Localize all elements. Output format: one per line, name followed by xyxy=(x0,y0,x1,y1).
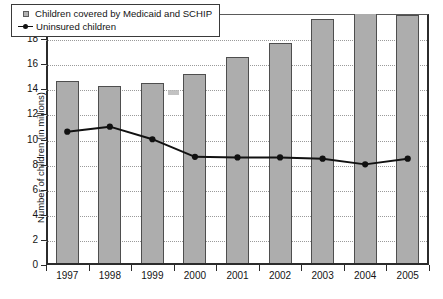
line-point-1999 xyxy=(149,136,155,142)
y-axis-tick-label: 12 xyxy=(12,109,38,119)
legend-label-medicaid: Children covered by Medicaid and SCHIP xyxy=(35,8,212,21)
line-point-2005 xyxy=(405,156,411,162)
y-axis-tick-label: 0 xyxy=(12,260,38,270)
line-point-2004 xyxy=(362,161,368,167)
scan-artifact-smudge xyxy=(168,90,179,95)
x-axis-tick-mark xyxy=(344,265,345,271)
y-axis-tick-label: 4 xyxy=(12,210,38,220)
line-point-2001 xyxy=(234,154,240,160)
x-axis-tick-label-2005: 2005 xyxy=(385,270,431,281)
legend-label-uninsured: Uninsured children xyxy=(36,21,116,34)
chart-legend: Children covered by Medicaid and SCHIP U… xyxy=(11,4,220,37)
legend-item-medicaid: Children covered by Medicaid and SCHIP xyxy=(17,8,212,21)
line-series xyxy=(46,15,429,266)
plot-area xyxy=(46,14,429,265)
line-point-1998 xyxy=(107,124,113,130)
y-axis-tick-label: 10 xyxy=(12,135,38,145)
line-point-2000 xyxy=(192,154,198,160)
x-axis-tick-label-1999: 1999 xyxy=(129,270,175,281)
x-axis-tick-mark xyxy=(131,265,132,271)
legend-line-marker-icon xyxy=(18,24,33,30)
x-axis-tick-mark xyxy=(174,265,175,271)
x-axis-tick-label-2002: 2002 xyxy=(257,270,303,281)
y-axis-tick-label: 2 xyxy=(12,235,38,245)
x-axis-tick-mark xyxy=(89,265,90,271)
legend-square-swatch-icon xyxy=(23,11,29,17)
chart-container: Number of children (in millions) 0246810… xyxy=(0,0,443,299)
y-axis-tick-label: 6 xyxy=(12,185,38,195)
x-axis-tick-mark xyxy=(301,265,302,271)
x-axis-tick-label-2000: 2000 xyxy=(172,270,218,281)
x-axis-tick-label-1998: 1998 xyxy=(87,270,133,281)
legend-item-uninsured: Uninsured children xyxy=(17,21,212,34)
x-axis-tick-label-2004: 2004 xyxy=(342,270,388,281)
x-axis-line xyxy=(46,263,427,265)
line-point-2003 xyxy=(320,156,326,162)
x-axis-tick-label-2003: 2003 xyxy=(300,270,346,281)
y-axis-tick-label: 8 xyxy=(12,160,38,170)
x-axis-tick-mark xyxy=(259,265,260,271)
y-axis-tick-label: 16 xyxy=(12,59,38,69)
x-axis-tick-mark xyxy=(386,265,387,271)
x-axis-tick-label-2001: 2001 xyxy=(215,270,261,281)
line-point-1997 xyxy=(64,129,70,135)
x-axis-tick-mark xyxy=(216,265,217,271)
x-axis-tick-mark xyxy=(46,265,47,271)
line-point-2002 xyxy=(277,154,283,160)
x-axis-tick-mark xyxy=(429,265,430,271)
x-axis-tick-label-1997: 1997 xyxy=(44,270,90,281)
y-axis-tick-label: 14 xyxy=(12,84,38,94)
